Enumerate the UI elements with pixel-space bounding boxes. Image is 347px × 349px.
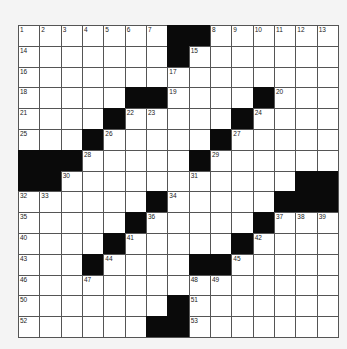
crossword-cell[interactable]	[167, 150, 188, 171]
crossword-cell[interactable]	[295, 108, 316, 129]
crossword-cell[interactable]	[61, 46, 82, 67]
crossword-cell[interactable]	[210, 46, 231, 67]
crossword-cell[interactable]	[61, 316, 82, 337]
crossword-cell[interactable]: 28	[82, 150, 103, 171]
crossword-cell[interactable]	[61, 295, 82, 316]
crossword-cell[interactable]	[125, 150, 146, 171]
crossword-cell[interactable]	[317, 108, 338, 129]
crossword-cell[interactable]	[189, 233, 210, 254]
crossword-cell[interactable]: 52	[18, 316, 39, 337]
crossword-cell[interactable]	[253, 191, 274, 212]
crossword-cell[interactable]	[61, 67, 82, 88]
crossword-cell[interactable]	[295, 316, 316, 337]
crossword-cell[interactable]	[231, 212, 252, 233]
crossword-cell[interactable]	[189, 108, 210, 129]
crossword-cell[interactable]	[39, 275, 60, 296]
crossword-cell[interactable]: 35	[18, 212, 39, 233]
crossword-cell[interactable]	[82, 108, 103, 129]
crossword-cell[interactable]: 33	[39, 191, 60, 212]
crossword-cell[interactable]	[231, 46, 252, 67]
crossword-cell[interactable]: 16	[18, 67, 39, 88]
crossword-cell[interactable]	[103, 171, 124, 192]
crossword-cell[interactable]	[61, 212, 82, 233]
crossword-cell[interactable]: 25	[18, 129, 39, 150]
crossword-cell[interactable]: 40	[18, 233, 39, 254]
crossword-cell[interactable]: 39	[317, 212, 338, 233]
crossword-cell[interactable]: 20	[274, 87, 295, 108]
crossword-cell[interactable]	[210, 191, 231, 212]
crossword-cell[interactable]: 44	[103, 254, 124, 275]
crossword-cell[interactable]: 14	[18, 46, 39, 67]
crossword-cell[interactable]: 41	[125, 233, 146, 254]
crossword-cell[interactable]	[210, 108, 231, 129]
crossword-cell[interactable]	[125, 171, 146, 192]
crossword-cell[interactable]	[253, 295, 274, 316]
crossword-cell[interactable]	[189, 129, 210, 150]
crossword-cell[interactable]	[189, 87, 210, 108]
crossword-cell[interactable]: 26	[103, 129, 124, 150]
crossword-cell[interactable]	[61, 275, 82, 296]
crossword-cell[interactable]: 3	[61, 25, 82, 46]
crossword-cell[interactable]	[317, 129, 338, 150]
crossword-cell[interactable]	[167, 275, 188, 296]
crossword-cell[interactable]	[61, 233, 82, 254]
crossword-cell[interactable]: 27	[231, 129, 252, 150]
crossword-cell[interactable]: 21	[18, 108, 39, 129]
crossword-cell[interactable]	[146, 150, 167, 171]
crossword-cell[interactable]: 46	[18, 275, 39, 296]
crossword-cell[interactable]	[125, 295, 146, 316]
crossword-cell[interactable]: 19	[167, 87, 188, 108]
crossword-cell[interactable]	[103, 191, 124, 212]
crossword-cell[interactable]	[274, 254, 295, 275]
crossword-cell[interactable]	[39, 254, 60, 275]
crossword-cell[interactable]: 53	[189, 316, 210, 337]
crossword-cell[interactable]	[253, 67, 274, 88]
crossword-cell[interactable]	[103, 275, 124, 296]
crossword-cell[interactable]	[317, 233, 338, 254]
crossword-cell[interactable]	[61, 108, 82, 129]
crossword-cell[interactable]	[253, 150, 274, 171]
crossword-cell[interactable]	[253, 46, 274, 67]
crossword-cell[interactable]: 18	[18, 87, 39, 108]
crossword-cell[interactable]	[103, 150, 124, 171]
crossword-cell[interactable]	[295, 150, 316, 171]
crossword-cell[interactable]	[39, 87, 60, 108]
crossword-cell[interactable]	[167, 171, 188, 192]
crossword-cell[interactable]	[125, 275, 146, 296]
crossword-cell[interactable]	[274, 129, 295, 150]
crossword-cell[interactable]: 31	[189, 171, 210, 192]
crossword-cell[interactable]	[103, 67, 124, 88]
crossword-cell[interactable]: 29	[210, 150, 231, 171]
crossword-cell[interactable]: 6	[125, 25, 146, 46]
crossword-cell[interactable]	[125, 67, 146, 88]
crossword-cell[interactable]	[61, 87, 82, 108]
crossword-cell[interactable]: 12	[295, 25, 316, 46]
crossword-cell[interactable]	[317, 275, 338, 296]
crossword-cell[interactable]	[317, 150, 338, 171]
crossword-cell[interactable]	[146, 275, 167, 296]
crossword-cell[interactable]	[125, 316, 146, 337]
crossword-cell[interactable]	[317, 87, 338, 108]
crossword-cell[interactable]	[39, 108, 60, 129]
crossword-cell[interactable]: 15	[189, 46, 210, 67]
crossword-cell[interactable]	[231, 87, 252, 108]
crossword-cell[interactable]: 9	[231, 25, 252, 46]
crossword-cell[interactable]	[274, 233, 295, 254]
crossword-cell[interactable]	[125, 46, 146, 67]
crossword-cell[interactable]	[125, 129, 146, 150]
crossword-cell[interactable]	[317, 67, 338, 88]
crossword-cell[interactable]	[189, 67, 210, 88]
crossword-cell[interactable]	[39, 233, 60, 254]
crossword-cell[interactable]	[39, 46, 60, 67]
crossword-cell[interactable]	[295, 87, 316, 108]
crossword-cell[interactable]: 32	[18, 191, 39, 212]
crossword-cell[interactable]	[189, 212, 210, 233]
crossword-cell[interactable]: 42	[253, 233, 274, 254]
crossword-cell[interactable]	[231, 295, 252, 316]
crossword-cell[interactable]: 4	[82, 25, 103, 46]
crossword-cell[interactable]	[231, 171, 252, 192]
crossword-cell[interactable]: 30	[61, 171, 82, 192]
crossword-cell[interactable]	[210, 171, 231, 192]
crossword-cell[interactable]: 36	[146, 212, 167, 233]
crossword-cell[interactable]	[103, 316, 124, 337]
